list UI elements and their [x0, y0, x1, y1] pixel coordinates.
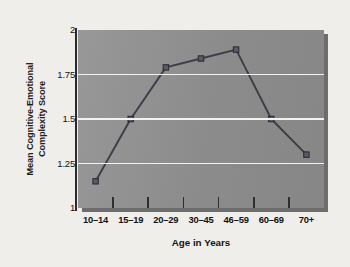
x-tick-label: 46–59	[224, 214, 249, 225]
y-tick-label: 1.5	[49, 113, 75, 124]
y-tick-label: 1.75	[49, 69, 75, 80]
x-axis-title: Age in Years	[78, 237, 324, 248]
data-point-marker	[198, 56, 203, 61]
x-tick-mark	[183, 197, 185, 208]
data-point-marker	[304, 152, 309, 157]
data-point-marker	[233, 47, 238, 52]
data-point-marker	[93, 179, 98, 184]
data-point-marker	[163, 65, 168, 70]
gridline	[78, 163, 324, 165]
x-tick-mark	[112, 197, 114, 208]
x-tick-label: 15–19	[118, 214, 143, 225]
y-axis-line	[75, 28, 77, 211]
x-tick-mark	[253, 197, 255, 208]
y-axis-tick-labels: 11.251.51.752	[48, 0, 75, 267]
series-polyline	[96, 50, 307, 182]
x-tick-label: 30–45	[188, 214, 213, 225]
x-tick-label: 70+	[299, 214, 314, 225]
gridline	[78, 118, 324, 120]
chart-figure: Mean Cognitive-Emotional Complexity Scor…	[0, 0, 350, 267]
x-tick-label: 10–14	[83, 214, 108, 225]
x-tick-label: 60–69	[259, 214, 284, 225]
x-tick-mark	[218, 197, 220, 208]
y-tick-label: 1	[49, 202, 75, 213]
y-tick-label: 1.25	[49, 158, 75, 169]
gridline	[78, 74, 324, 76]
y-tick-label: 2	[49, 24, 75, 35]
x-tick-mark	[288, 197, 290, 208]
gridline	[78, 30, 324, 31]
x-axis-tick-labels: 10–1415–1920–2930–4546–5960–6970+	[78, 214, 324, 228]
plot-area	[78, 30, 324, 208]
x-tick-mark	[147, 197, 149, 208]
y-axis-title-line-1: Mean Cognitive-Emotional	[25, 63, 37, 176]
y-axis-title-line-2: Complexity Score	[36, 63, 48, 176]
x-tick-label: 20–29	[153, 214, 178, 225]
